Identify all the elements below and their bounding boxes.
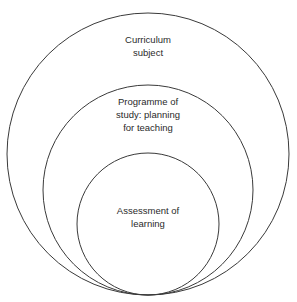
label-line: study: planning (116, 108, 180, 121)
label-line: Programme of (116, 95, 180, 108)
label-curriculum-subject: Curriculum subject (125, 33, 171, 59)
label-line: Assessment of (117, 204, 179, 217)
label-line: for teaching (116, 121, 180, 134)
label-line: learning (117, 217, 179, 230)
label-programme-of-study: Programme of study: planning for teachin… (116, 95, 180, 134)
label-line: Curriculum (125, 33, 171, 46)
label-assessment-of-learning: Assessment of learning (117, 204, 179, 230)
label-line: subject (125, 46, 171, 59)
